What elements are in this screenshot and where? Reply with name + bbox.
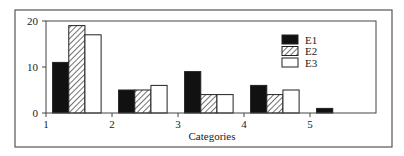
x-axis-title: Categories <box>188 130 235 142</box>
x-tick-label: 2 <box>109 118 115 130</box>
legend-label: E3 <box>305 57 318 69</box>
legend-swatch <box>282 58 298 67</box>
bar-e1-cat-4 <box>251 85 267 113</box>
bar-e1-cat-5 <box>317 108 333 113</box>
y-tick-label: 20 <box>27 15 39 27</box>
x-tick-label: 4 <box>241 118 247 130</box>
legend-item-e3: E3 <box>282 57 318 69</box>
legend-swatch <box>282 47 298 56</box>
legend: E1E2E3 <box>282 34 318 69</box>
bar-e2-cat-1 <box>69 26 85 113</box>
bar-e1-cat-1 <box>53 62 69 113</box>
y-tick-label: 0 <box>33 107 39 119</box>
legend-swatch <box>282 35 298 44</box>
bar-e3-cat-1 <box>85 35 101 113</box>
y-tick-label: 10 <box>27 61 39 73</box>
bar-e2-cat-4 <box>267 95 283 113</box>
bar-e3-cat-3 <box>217 95 233 113</box>
legend-item-e2: E2 <box>282 45 317 57</box>
x-tick-label: 1 <box>43 118 49 130</box>
bar-e1-cat-3 <box>185 72 201 113</box>
x-tick-label: 3 <box>175 118 181 130</box>
legend-item-e1: E1 <box>282 34 317 46</box>
bar-e2-cat-3 <box>201 95 217 113</box>
bar-e1-cat-2 <box>119 90 135 113</box>
x-tick-label: 5 <box>307 118 313 130</box>
bar-e2-cat-2 <box>135 90 151 113</box>
legend-label: E2 <box>305 45 317 57</box>
bar-chart: 0102012345 E1E2E3 Categories <box>0 0 404 156</box>
bar-e3-cat-4 <box>283 90 299 113</box>
bar-e3-cat-2 <box>151 85 167 113</box>
legend-label: E1 <box>305 34 317 46</box>
